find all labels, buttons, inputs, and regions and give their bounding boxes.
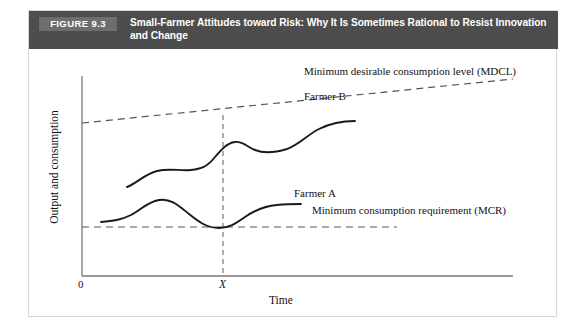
figure-title: Small-Farmer Attitudes toward Risk: Why … [130, 16, 550, 43]
y-axis-label: Output and consumption [48, 97, 60, 237]
figure-container: FIGURE 9.3 Small-Farmer Attitudes toward… [28, 10, 557, 317]
mdcl-line [82, 79, 513, 123]
figure-number-label: FIGURE 9.3 [39, 17, 117, 31]
x-tick-zero: 0 [78, 278, 84, 290]
chart-plot-area: Minimum desirable consumption level (MDC… [29, 49, 558, 317]
figure-number-badge: FIGURE 9.3 [39, 17, 117, 31]
annotation-mcr: Minimum consumption requirement (MCR) [312, 204, 506, 216]
farmer-b-curve [127, 121, 355, 187]
chart-svg [29, 49, 558, 317]
annotation-farmer-a: Farmer A [294, 187, 336, 199]
annotation-mdcl: Minimum desirable consumption level (MDC… [304, 65, 516, 77]
figure-header-bar: FIGURE 9.3 Small-Farmer Attitudes toward… [29, 11, 558, 49]
farmer-a-curve [101, 200, 301, 228]
annotation-farmer-b: Farmer B [304, 90, 346, 102]
x-tick-x: X [219, 278, 226, 290]
x-axis-label: Time [269, 294, 293, 306]
